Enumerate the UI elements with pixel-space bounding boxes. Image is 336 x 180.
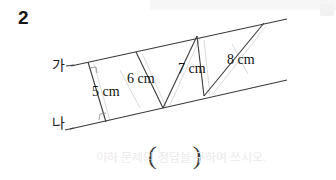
length-label-8cm: 8 cm	[227, 53, 255, 67]
length-label-5cm: 5 cm	[92, 85, 120, 99]
watermark-text: 이하 문제의 정답을 구하여 쓰시오.	[96, 152, 336, 164]
top-line-label: 가	[52, 58, 65, 72]
bottom-line-label: 나	[52, 116, 65, 130]
length-label-7cm: 7 cm	[178, 62, 206, 76]
length-label-6cm: 6 cm	[127, 72, 155, 86]
worksheet-page: 2 가 나 5 cm 6 cm 7	[0, 0, 336, 180]
